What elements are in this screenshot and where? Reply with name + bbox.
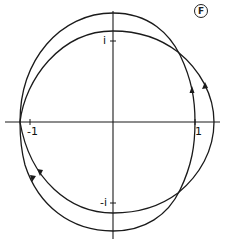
label-i: i	[103, 35, 106, 46]
arrow-up-icon	[190, 86, 195, 93]
label-minus-i: -i	[100, 197, 107, 208]
arrow-up-icon	[202, 82, 208, 89]
panel-label-badge: F	[194, 4, 208, 18]
label-one: 1	[195, 126, 202, 137]
label-minus-one: -1	[27, 126, 38, 137]
complex-plane-diagram	[0, 0, 226, 245]
